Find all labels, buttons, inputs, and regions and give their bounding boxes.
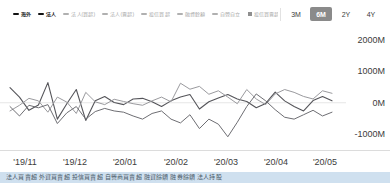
legend-item-5[interactable]: 融資餘額 bbox=[177, 12, 205, 17]
x-tick-label-6: '20/05 bbox=[313, 157, 337, 167]
legend-item-label: 海外 bbox=[21, 12, 31, 17]
chart-plot-area[interactable]: 2000M1000M0M-1000M bbox=[0, 24, 390, 150]
legend-item-1[interactable]: 法人 bbox=[38, 12, 56, 17]
bottom-tab-strip[interactable]: 法人買賣超 外資買賣超 投信買賣超 自營商買賣超 融資餘額 融券餘額 法人持股 bbox=[0, 172, 390, 183]
legend-item-4[interactable]: 投信買超 bbox=[141, 12, 169, 17]
y-tick-label-1: 1000M bbox=[357, 66, 385, 76]
legend-item-label: 自營自立 bbox=[220, 12, 240, 17]
legend-line-swatch-icon bbox=[63, 13, 69, 14]
legend-item-label: 投信買賣超 bbox=[254, 12, 279, 17]
toolbar-divider bbox=[280, 8, 281, 21]
y-tick-label-3: -1000M bbox=[354, 129, 385, 139]
legend-line-swatch-icon bbox=[212, 13, 218, 14]
y-axis-labels: 2000M1000M0M-1000M bbox=[332, 24, 388, 150]
x-tick-label-0: '19/11 bbox=[13, 157, 37, 167]
chart-toolbar: 海外法人法人(買超)法人(賣超)投信買超融資餘額自營自立投信買賣超外人月 3M6… bbox=[0, 4, 390, 24]
legend-line-swatch-icon bbox=[177, 13, 183, 14]
x-tick-label-2: '20/01 bbox=[113, 157, 137, 167]
legend-item-label: 法人(買超) bbox=[71, 12, 95, 17]
bottom-tab-strip-label: 法人買賣超 外資買賣超 投信買賣超 自營商買賣超 融資餘額 融券餘額 法人持股 bbox=[0, 172, 390, 183]
x-tick-label-5: '20/04 bbox=[264, 157, 288, 167]
time-range-selector[interactable]: 3M6M2Y4Y bbox=[285, 7, 390, 21]
chart-series-line-1 bbox=[10, 83, 332, 113]
legend-line-swatch-icon bbox=[38, 13, 44, 14]
range-button-4y[interactable]: 4Y bbox=[360, 7, 382, 21]
legend-item-3[interactable]: 法人(賣超) bbox=[102, 12, 134, 17]
legend-square-swatch-icon bbox=[248, 12, 252, 16]
institutional-trading-chart-widget: 海外法人法人(買超)法人(賣超)投信買超融資餘額自營自立投信買賣超外人月 3M6… bbox=[0, 0, 390, 183]
legend-line-swatch-icon bbox=[102, 13, 108, 14]
legend-line-swatch-icon bbox=[141, 13, 147, 14]
legend-item-6[interactable]: 自營自立 bbox=[212, 12, 240, 17]
y-tick-label-2: 0M bbox=[372, 98, 385, 108]
x-tick-label-4: '20/03 bbox=[214, 157, 238, 167]
legend-item-2[interactable]: 法人(買超) bbox=[63, 12, 95, 17]
legend-item-label: 投信買超 bbox=[149, 12, 169, 17]
range-button-6m[interactable]: 6M bbox=[310, 7, 332, 21]
y-tick-label-0: 2000M bbox=[357, 35, 385, 45]
range-button-3m[interactable]: 3M bbox=[285, 7, 307, 21]
legend-item-label: 法人 bbox=[46, 12, 56, 17]
legend-item-0[interactable]: 海外 bbox=[13, 12, 31, 17]
x-tick-label-1: '19/12 bbox=[63, 157, 87, 167]
range-button-2y[interactable]: 2Y bbox=[335, 7, 357, 21]
legend-item-label: 融資餘額 bbox=[185, 12, 205, 17]
x-tick-label-3: '20/02 bbox=[164, 157, 188, 167]
legend-item-7[interactable]: 投信買賣超 bbox=[248, 12, 279, 17]
legend-item-label: 法人(賣超) bbox=[110, 12, 134, 17]
legend-line-swatch-icon bbox=[13, 13, 19, 14]
chart-legend: 海外法人法人(買超)法人(賣超)投信買超融資餘額自營自立投信買賣超外人月 bbox=[0, 12, 278, 17]
x-axis-labels: '19/11'19/12'20/01'20/02'20/03'20/04'20/… bbox=[0, 150, 390, 170]
